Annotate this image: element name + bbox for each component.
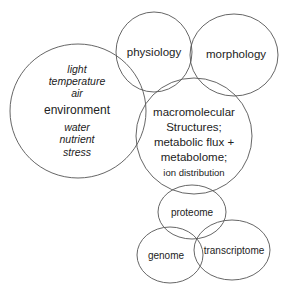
env-factor-air: air: [71, 87, 83, 99]
macro-sub-ion-distribution: ion distribution: [163, 167, 224, 178]
proteome-label: proteome: [171, 207, 214, 218]
macro-line-2: Structures;: [166, 121, 222, 133]
env-factor-water: water: [64, 121, 90, 133]
morphology-label: morphology: [206, 48, 266, 60]
macro-line-4: metabolome;: [161, 151, 227, 163]
venn-diagram: light temperature air environment water …: [0, 0, 286, 287]
macro-line-3: metabolic flux +: [154, 136, 235, 148]
physiology-label: physiology: [127, 46, 182, 58]
env-factor-light: light: [67, 63, 87, 75]
env-factor-temperature: temperature: [49, 75, 106, 87]
macro-line-1: macromolecular: [153, 106, 235, 118]
env-factor-nutrient: nutrient: [59, 133, 95, 145]
environment-label: environment: [44, 103, 111, 117]
env-factor-stress: stress: [63, 146, 92, 158]
genome-label: genome: [148, 250, 185, 261]
transcriptome-label: transcriptome: [204, 245, 265, 256]
